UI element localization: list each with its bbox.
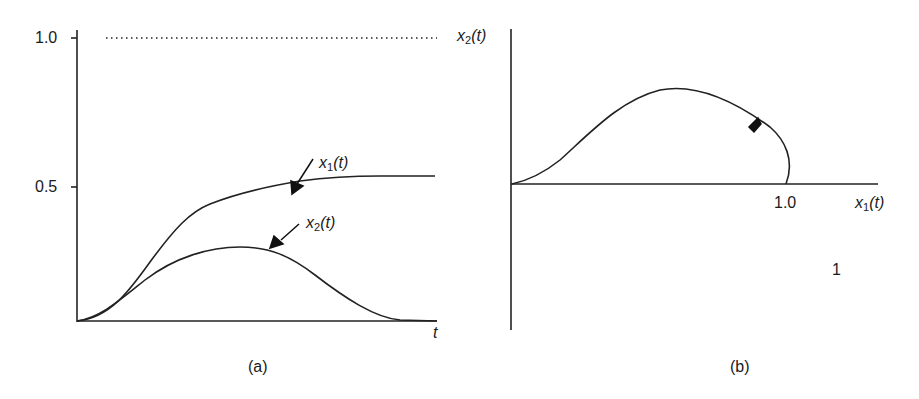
panel-b-xtick-label: 1.0 [774, 195, 796, 211]
panel-a-ytick-label-05: 0.5 [35, 179, 57, 195]
panel-a-x2-curve [77, 247, 437, 321]
panel-b-caption: (b) [730, 359, 750, 375]
panel-b-annotation: 1 [832, 262, 841, 278]
x2-label-main: x [306, 214, 314, 231]
panel-b-trajectory [512, 88, 789, 184]
panel-a-ytick-label-1: 1.0 [35, 30, 57, 46]
panel-b-y-axis-label: x2(t) [457, 28, 486, 46]
panel-b-direction-arrowhead [749, 118, 761, 132]
x2-series-label: x2(t) [306, 215, 335, 233]
x1-label-tail: (t) [333, 154, 348, 171]
x2-pointer-arrowhead [270, 236, 283, 248]
panel-b-xlabel-main: x [855, 194, 863, 211]
x1-label-main: x [319, 154, 327, 171]
panel-a-caption: (a) [248, 359, 268, 375]
panel-b-ylabel-tail: (t) [471, 27, 486, 44]
x2-pointer-arrow-line [281, 224, 299, 240]
panel-a-x-axis-label: t [433, 325, 437, 341]
panel-b-xlabel-tail: (t) [869, 194, 884, 211]
x1-pointer-arrowhead [291, 181, 303, 194]
x2-label-tail: (t) [320, 214, 335, 231]
panel-b-ylabel-main: x [457, 27, 465, 44]
x1-series-label: x1(t) [319, 155, 348, 173]
panel-b-x-axis-label: x1(t) [855, 195, 884, 213]
